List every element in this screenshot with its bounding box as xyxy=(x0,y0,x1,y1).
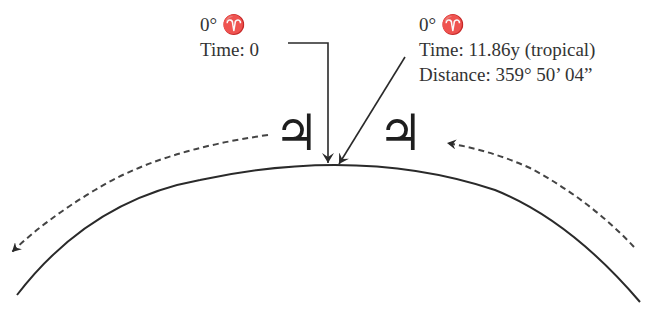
jupiter-start-icon: ♃ xyxy=(274,108,319,158)
orbit-diagram: 0° ♈ Time: 0 0° ♈ Time: 11.86y (tropical… xyxy=(0,0,646,310)
end-position-text: 0° ♈ xyxy=(419,12,595,37)
end-time-text: Time: 11.86y (tropical) xyxy=(419,37,595,62)
orbit-arc xyxy=(17,165,640,302)
left-motion-arrow xyxy=(12,135,268,252)
start-position-text: 0° ♈ xyxy=(200,12,259,37)
start-time-text: Time: 0 xyxy=(200,37,259,62)
jupiter-end-icon: ♃ xyxy=(378,108,423,158)
right-motion-arrow xyxy=(447,143,634,247)
end-label: 0° ♈ Time: 11.86y (tropical) Distance: 3… xyxy=(419,12,595,87)
end-distance-text: Distance: 359° 50’ 04” xyxy=(419,62,595,87)
start-label: 0° ♈ Time: 0 xyxy=(200,12,259,62)
